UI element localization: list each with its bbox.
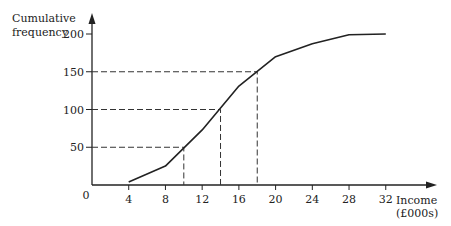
x-tick-label: 24 bbox=[305, 193, 319, 206]
x-tick-label: 12 bbox=[195, 193, 209, 206]
cumulative-frequency-chart: 04812162024283250100150200 bbox=[0, 0, 451, 226]
x-tick-label: 8 bbox=[162, 193, 169, 206]
y-tick-label: 150 bbox=[63, 66, 84, 79]
x-tick-label: 20 bbox=[269, 193, 283, 206]
y-tick-label: 100 bbox=[63, 104, 84, 117]
x-tick-label: 32 bbox=[379, 193, 393, 206]
x-tick-label: 28 bbox=[342, 193, 356, 206]
dashed-guide-line bbox=[92, 72, 257, 185]
x-tick-label: 4 bbox=[125, 193, 132, 206]
origin-label: 0 bbox=[83, 189, 90, 202]
y-axis-arrow-icon bbox=[89, 13, 96, 24]
x-tick-label: 16 bbox=[232, 193, 246, 206]
y-tick-label: 200 bbox=[63, 28, 84, 41]
dashed-guide-line bbox=[92, 147, 184, 185]
x-axis-arrow-icon bbox=[426, 182, 437, 189]
y-tick-label: 50 bbox=[70, 141, 84, 154]
